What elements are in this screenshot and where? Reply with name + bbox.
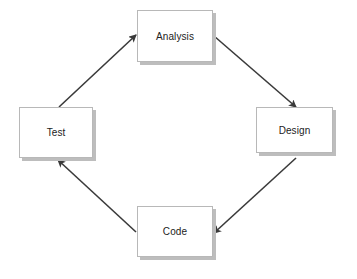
- node-label-code: Code: [163, 226, 187, 237]
- sdlc-cycle-diagram: Analysis Design Code Test: [0, 0, 357, 279]
- arrow-test-to-analysis: [59, 35, 136, 107]
- node-design: Design: [256, 107, 333, 153]
- node-label-test: Test: [47, 127, 66, 138]
- node-test: Test: [19, 107, 93, 158]
- node-code: Code: [137, 206, 213, 257]
- node-analysis: Analysis: [137, 10, 213, 62]
- arrow-code-to-test: [58, 160, 136, 232]
- node-label-analysis: Analysis: [156, 31, 194, 42]
- node-label-design: Design: [279, 125, 311, 136]
- arrow-design-to-code: [214, 158, 296, 233]
- arrow-analysis-to-design: [214, 36, 296, 107]
